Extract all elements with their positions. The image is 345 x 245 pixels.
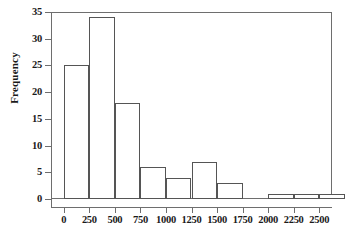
x-axis-tick bbox=[115, 207, 116, 213]
x-axis-tick-label: 250 bbox=[82, 215, 97, 226]
y-axis-tick-label: 5 bbox=[37, 167, 42, 178]
y-axis-tick-label: 30 bbox=[32, 34, 42, 45]
x-axis-tick-label: 1000 bbox=[156, 215, 176, 226]
x-axis-tick-label: 1500 bbox=[207, 215, 227, 226]
x-axis-tick bbox=[268, 207, 269, 213]
histogram-bar bbox=[217, 183, 243, 199]
y-axis-title: Frequency bbox=[8, 38, 20, 118]
x-axis-tick bbox=[243, 207, 244, 213]
histogram-bar bbox=[115, 103, 141, 199]
histogram-bar bbox=[192, 162, 218, 199]
x-axis-tick bbox=[319, 207, 320, 213]
x-axis-tick bbox=[294, 207, 295, 213]
x-axis-tick-label: 500 bbox=[107, 215, 122, 226]
histogram-bar bbox=[294, 194, 320, 199]
x-axis-tick bbox=[140, 207, 141, 213]
histogram-bar bbox=[64, 65, 90, 199]
histogram-bar bbox=[89, 17, 115, 199]
histogram-bar bbox=[268, 194, 294, 199]
y-axis-tick-label: 35 bbox=[32, 7, 42, 18]
x-axis-tick-label: 1750 bbox=[233, 215, 253, 226]
x-axis-tick-label: 0 bbox=[61, 215, 66, 226]
x-axis-tick bbox=[166, 207, 167, 213]
bar-series bbox=[51, 12, 332, 199]
histogram-bar bbox=[166, 178, 192, 199]
x-axis-tick-label: 2250 bbox=[284, 215, 304, 226]
y-axis-tick-label: 10 bbox=[32, 141, 42, 152]
y-axis-tick-label: 0 bbox=[37, 194, 42, 205]
x-axis-left-cap bbox=[51, 199, 52, 208]
x-axis-tick bbox=[64, 207, 65, 213]
y-axis-tick-label: 20 bbox=[32, 87, 42, 98]
x-axis-tick-label: 2500 bbox=[309, 215, 329, 226]
x-axis-tick bbox=[217, 207, 218, 213]
y-axis-tick-label: 25 bbox=[32, 60, 42, 71]
y-axis-tick-label: 15 bbox=[32, 114, 42, 125]
histogram-bar bbox=[319, 194, 345, 199]
x-axis-tick-label: 1250 bbox=[182, 215, 202, 226]
x-axis-tick-label: 750 bbox=[133, 215, 148, 226]
histogram-bar bbox=[140, 167, 166, 199]
x-axis-tick bbox=[89, 207, 90, 213]
x-axis-tick bbox=[192, 207, 193, 213]
x-axis-tick-label: 2000 bbox=[258, 215, 278, 226]
